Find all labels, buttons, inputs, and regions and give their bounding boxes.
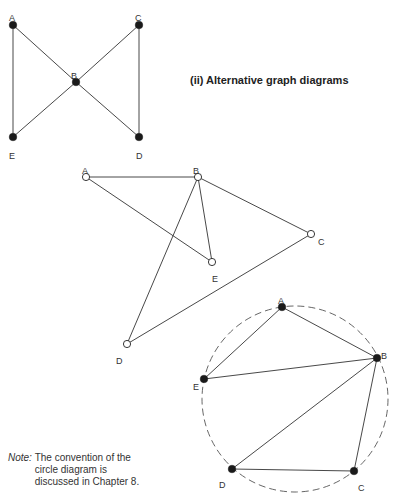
node-label-A: A: [9, 13, 15, 23]
edge-B-D: [76, 82, 139, 137]
edge-B-C: [198, 177, 311, 234]
node-E: [9, 133, 17, 141]
dashed-circle: [202, 306, 388, 492]
edge-D-C: [232, 469, 354, 471]
edge-E-B: [204, 358, 377, 379]
note-label: Note:: [8, 452, 32, 463]
node-D: [135, 133, 143, 141]
edge-D-C: [127, 234, 311, 344]
diagram-heading: (ii) Alternative graph diagrams: [190, 74, 349, 86]
node-B: [373, 354, 381, 362]
note-line: circle diagram is: [35, 464, 107, 475]
bowtie-graph: ABCDE: [9, 13, 143, 161]
node-label-D: D: [136, 151, 143, 161]
node-label-B: B: [193, 166, 199, 176]
node-label-C: C: [135, 13, 142, 23]
node-E: [200, 375, 208, 383]
note-line: The convention of the: [35, 452, 131, 463]
node-D: [123, 340, 130, 347]
node-D: [228, 465, 236, 473]
edge-B-D: [127, 177, 198, 344]
node-E: [208, 258, 215, 265]
edge-B-E: [198, 177, 212, 262]
edge-A-B: [13, 25, 76, 82]
note-text: Note: The convention of the circle diagr…: [8, 452, 139, 488]
edge-B-E: [13, 82, 76, 137]
node-label-E: E: [212, 274, 218, 284]
edge-A-E: [204, 307, 282, 379]
node-label-A: A: [278, 296, 284, 306]
node-C: [307, 230, 314, 237]
node-label-C: C: [318, 237, 325, 247]
node-label-B: B: [381, 351, 387, 361]
circle-graph: ABCDE: [193, 296, 388, 493]
node-label-A: A: [82, 166, 88, 176]
node-label-E: E: [193, 382, 199, 392]
edge-B-C: [354, 358, 377, 471]
open-node-graph: ABCDE: [82, 166, 325, 366]
edge-B-D: [232, 358, 377, 469]
edge-B-C: [76, 25, 139, 82]
edge-A-B: [282, 307, 377, 358]
node-label-B: B: [71, 71, 77, 81]
note-line: discussed in Chapter 8.: [35, 476, 140, 487]
node-C: [350, 467, 358, 475]
edge-A-E: [86, 177, 212, 262]
node-label-E: E: [9, 151, 15, 161]
note-body: The convention of the circle diagram is …: [35, 452, 140, 488]
node-label-C: C: [358, 483, 365, 493]
node-label-D: D: [116, 356, 123, 366]
node-label-D: D: [219, 480, 226, 490]
